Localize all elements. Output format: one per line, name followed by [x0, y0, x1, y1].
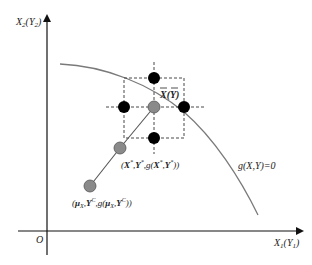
iterate-point — [114, 142, 126, 154]
right-point — [178, 101, 190, 113]
iterate-label: (X*,Y*,g(X*,Y*)) — [121, 159, 179, 170]
curve-label: g(X,Y)=0 — [238, 160, 276, 172]
start-point — [84, 180, 96, 192]
svg-text:(X*,Y*,g(X*,Y*)): (X*,Y*,g(X*,Y*)) — [121, 159, 179, 170]
y-axis-label: X2(Y2) — [15, 16, 42, 29]
x-axis-label: X1(Y1) — [273, 237, 300, 250]
bottom-point — [148, 132, 160, 144]
left-point — [118, 101, 130, 113]
top-point — [148, 72, 160, 84]
center-label: X(Y) — [159, 88, 179, 101]
svg-text:(μX,YC,g(μX,YC)): (μX,YC,g(μX,YC)) — [72, 197, 132, 209]
path-segment-2 — [120, 107, 154, 148]
origin-label: O — [36, 234, 43, 245]
center-point — [148, 101, 160, 113]
path-segment-1 — [90, 148, 120, 186]
start-label: (μX,YC,g(μX,YC)) — [72, 197, 132, 209]
svg-text:X(Y): X(Y) — [159, 89, 179, 101]
limit-state-diagram: X2(Y2) X1(Y1) O g(X,Y)=0 X(Y) (X*,Y*,g(X… — [0, 0, 312, 265]
